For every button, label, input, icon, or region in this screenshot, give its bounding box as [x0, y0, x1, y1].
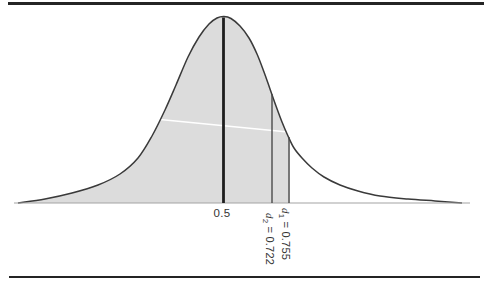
density-curve-chart — [0, 0, 487, 291]
d1-value-label: d1 = 0.755 — [275, 208, 292, 260]
figure: 0.5 d2 = 0.722 d1 = 0.755 — [0, 0, 487, 291]
bottom-rule — [9, 276, 480, 279]
d1-value: = 0.755 — [280, 218, 292, 260]
median-value-label: 0.5 — [214, 207, 231, 219]
shaded-area — [18, 16, 462, 203]
d2-value-label: d2 = 0.722 — [259, 213, 276, 265]
